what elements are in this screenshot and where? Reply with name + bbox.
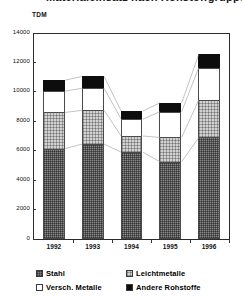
y-axis-tick-label: 10000 [0, 87, 30, 93]
bar-segment[interactable] [82, 144, 104, 239]
y-axis-tick-label: 14000 [0, 29, 30, 35]
x-axis-tick-label: 1994 [112, 243, 152, 250]
stacked-bar[interactable] [82, 76, 104, 239]
bar-segment[interactable] [43, 91, 65, 112]
legend-label: Versch. Metalle [46, 283, 102, 292]
legend-swatch-icon [126, 284, 133, 291]
bar-segment[interactable] [159, 112, 181, 138]
x-axis-tick-label: 1996 [189, 243, 229, 250]
chart-title-strip: Materialeinsatz nach Rohstoffgruppen [0, 0, 242, 7]
legend-label: Leichtmetalle [136, 269, 185, 278]
bar-segment[interactable] [198, 137, 220, 239]
legend-item[interactable]: Versch. Metalle [36, 283, 126, 292]
bar-segment[interactable] [121, 111, 143, 119]
y-axis-unit-label: TDM [32, 11, 47, 18]
legend-label: Andere Rohstoffe [136, 283, 201, 292]
bar-segment[interactable] [159, 137, 181, 161]
bar-segment[interactable] [43, 149, 65, 239]
y-axis-tick-label: 12000 [0, 58, 30, 64]
legend-item[interactable]: Leichtmetalle [126, 269, 236, 278]
chart-legend: StahlLeichtmetalleVersch. MetalleAndere … [36, 266, 236, 294]
bar-segment[interactable] [43, 80, 65, 91]
legend-swatch-icon [126, 270, 133, 277]
bar-segment[interactable] [198, 54, 220, 67]
stacked-bar[interactable] [43, 80, 65, 239]
x-axis-tick-mark [229, 240, 230, 243]
bars-container [35, 33, 229, 239]
chart-title: Materialeinsatz nach Rohstoffgruppen [46, 0, 242, 3]
bar-segment[interactable] [82, 76, 104, 88]
y-axis-tick-label: 4000 [0, 176, 30, 182]
legend-item[interactable]: Andere Rohstoffe [126, 283, 236, 292]
x-axis-tick-label: 1992 [34, 243, 74, 250]
bar-segment[interactable] [121, 136, 143, 152]
bar-slot [190, 33, 229, 239]
stacked-bar-chart: Materialeinsatz nach Rohstoffgruppen TDM… [0, 0, 242, 298]
x-axis-tick-label: 1993 [73, 243, 113, 250]
legend-label: Stahl [46, 269, 65, 278]
stacked-bar[interactable] [121, 111, 143, 239]
bar-segment[interactable] [198, 68, 220, 100]
x-axis-tick-label: 1995 [150, 243, 190, 250]
legend-item[interactable]: Stahl [36, 269, 126, 278]
bar-slot [35, 33, 74, 239]
bar-segment[interactable] [43, 112, 65, 148]
y-axis-tick-label: 2000 [0, 205, 30, 211]
bar-segment[interactable] [121, 152, 143, 239]
stacked-bar[interactable] [159, 103, 181, 239]
legend-swatch-icon [36, 270, 43, 277]
stacked-bar[interactable] [198, 54, 220, 239]
legend-swatch-icon [36, 284, 43, 291]
bar-slot [73, 33, 112, 239]
bar-segment[interactable] [82, 110, 104, 144]
y-axis-tick-label: 0 [0, 235, 30, 241]
y-axis-tick-label: 8000 [0, 117, 30, 123]
y-axis-tick-label: 6000 [0, 146, 30, 152]
bar-segment[interactable] [198, 100, 220, 138]
bar-segment[interactable] [159, 103, 181, 112]
bar-segment[interactable] [82, 88, 104, 110]
bar-slot [112, 33, 151, 239]
bar-segment[interactable] [159, 162, 181, 239]
bar-slot [151, 33, 190, 239]
bar-segment[interactable] [121, 119, 143, 136]
